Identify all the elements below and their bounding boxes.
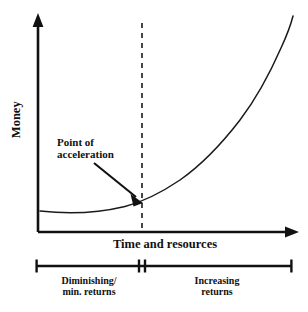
- point-of-acceleration-label: Point ofacceleration: [57, 137, 114, 161]
- x-axis-label: Time and resources: [38, 238, 292, 252]
- right-segment-line-1: Increasing: [195, 275, 240, 286]
- left-segment-line-1: Diminishing/: [61, 275, 116, 286]
- increasing-returns-label: Increasingreturns: [142, 276, 292, 298]
- annotation-line-2: acceleration: [57, 148, 114, 160]
- right-segment-line-2: returns: [201, 286, 232, 297]
- left-segment-line-2: min. returns: [62, 286, 115, 297]
- diminishing-returns-label: Diminishing/min. returns: [36, 276, 142, 298]
- exponential-returns-chart: [0, 0, 308, 312]
- y-axis-label: Money: [10, 90, 24, 150]
- annotation-line-1: Point of: [57, 136, 94, 148]
